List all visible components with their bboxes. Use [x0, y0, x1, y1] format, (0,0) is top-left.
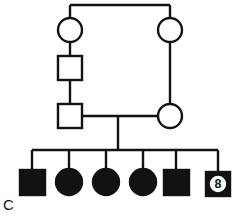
pedigree-diagram: 8 [0, 0, 240, 219]
panel-label: C [3, 196, 14, 214]
person-I-2-female-unaffected[interactable] [158, 18, 182, 42]
person-III-2-female-unaffected[interactable] [158, 104, 182, 128]
person-IV-1-male-affected[interactable] [20, 170, 45, 195]
count-badge-label: 8 [215, 177, 222, 191]
person-IV-2-female-affected[interactable] [56, 169, 82, 195]
symbol-layer: 8 [20, 18, 230, 196]
person-III-1-male-unaffected[interactable] [58, 104, 82, 128]
person-IV-6-male-affected-count[interactable]: 8 [206, 172, 230, 196]
pedigree-figure: 8 C [0, 0, 240, 219]
person-II-1-male-unaffected[interactable] [58, 56, 82, 80]
person-IV-3-female-affected[interactable] [93, 169, 119, 195]
person-IV-5-male-affected[interactable] [164, 170, 189, 195]
person-I-1-female-unaffected[interactable] [58, 18, 82, 42]
person-IV-4-female-affected[interactable] [130, 169, 156, 195]
